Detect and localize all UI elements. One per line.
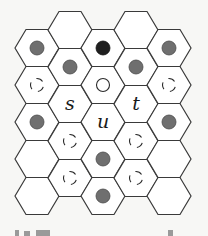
caption-fragment	[15, 230, 173, 236]
caption-glyph	[15, 230, 19, 236]
gray-token	[162, 41, 176, 55]
caption-glyph	[24, 231, 30, 236]
hex-grid-diagram: sut	[0, 0, 208, 236]
caption-glyph	[36, 230, 50, 236]
caption-glyph	[168, 230, 173, 236]
gray-token	[162, 115, 176, 129]
gray-token	[30, 115, 44, 129]
gray-token	[63, 60, 77, 74]
cell-label-t: t	[132, 92, 140, 114]
gray-token	[30, 41, 44, 55]
gray-token	[129, 60, 143, 74]
gray-token	[96, 189, 110, 203]
cell-label-s: s	[65, 92, 75, 114]
black-token	[96, 41, 110, 55]
cell-label-u: u	[97, 110, 109, 132]
gray-token	[96, 152, 110, 166]
hollow-token	[97, 79, 110, 92]
